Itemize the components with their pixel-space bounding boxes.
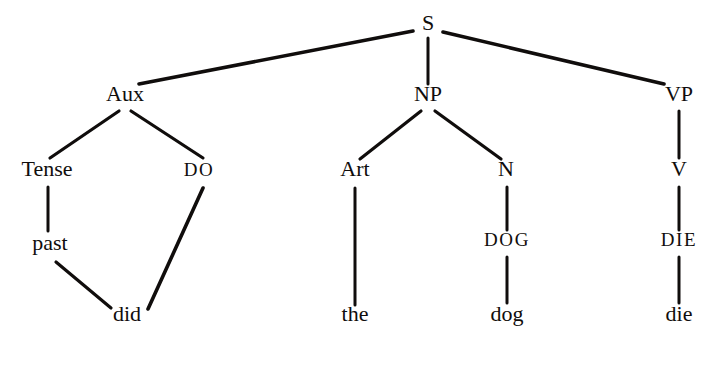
tree-edge-s-to-vp [443, 32, 664, 84]
tree-edge-s-to-aux [139, 31, 413, 84]
tree-node-art: Art [340, 156, 369, 181]
tree-edge-np-to-art [360, 111, 421, 159]
tree-edge-do-to-did [148, 188, 203, 309]
syntax-tree-canvas: SAuxNPVPTenseDOArtNVpastDOGDIEdidthedogd… [0, 0, 706, 371]
tree-node-np: NP [414, 81, 442, 106]
tree-node-vp: VP [665, 81, 693, 106]
tree-node-v: V [671, 156, 687, 181]
tree-node-die: die [666, 301, 693, 326]
tree-node-did: did [113, 301, 141, 326]
tree-nodes-group: SAuxNPVPTenseDOArtNVpastDOGDIEdidthedogd… [22, 10, 698, 326]
tree-edge-aux-to-tense [50, 111, 119, 158]
tree-node-s: S [422, 10, 434, 35]
tree-edge-aux-to-do [131, 111, 203, 158]
tree-node-dog: dog [491, 301, 524, 326]
tree-edge-np-to-n [435, 111, 501, 159]
tree-node-aux: Aux [106, 81, 144, 106]
tree-node-past: past [32, 230, 67, 255]
tree-node-the: the [342, 301, 369, 326]
tree-node-n: N [498, 156, 514, 181]
tree-node-tense: Tense [22, 156, 73, 181]
tree-node-dog_caps: DOG [484, 229, 530, 250]
syntax-tree-figure: SAuxNPVPTenseDOArtNVpastDOGDIEdidthedogd… [0, 0, 706, 371]
tree-node-do: DO [184, 159, 215, 180]
tree-edge-past-to-did [56, 262, 111, 308]
tree-node-die_caps: DIE [661, 229, 697, 250]
